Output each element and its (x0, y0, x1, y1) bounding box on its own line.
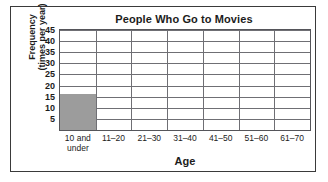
y-axis-tick: 35 (45, 48, 55, 57)
y-axis-tick: 25 (45, 70, 55, 79)
x-axis-label: Age (59, 155, 311, 167)
x-axis-tick-line: under (60, 143, 96, 153)
x-axis-tick-line: 51–60 (239, 133, 275, 143)
y-axis-tick: 20 (45, 81, 55, 90)
x-axis-tick: 61–70 (274, 133, 310, 143)
x-axis-tick: 10 andunder (60, 133, 96, 153)
bar[interactable] (60, 94, 96, 130)
chart-title: People Who Go to Movies (57, 13, 311, 25)
x-axis-tick-line: 61–70 (274, 133, 310, 143)
y-axis-tick: 10 (45, 103, 55, 112)
y-axis-tick-labels: 45403530252015105 (31, 29, 57, 131)
x-axis-tick-line: 10 and (60, 133, 96, 143)
y-axis-tick: 30 (45, 59, 55, 68)
y-axis-tick: 15 (45, 92, 55, 101)
x-axis-tick: 51–60 (239, 133, 275, 143)
x-axis-tick-line: 21–30 (131, 133, 167, 143)
x-axis-tick-line: 11–20 (96, 133, 132, 143)
x-axis-tick: 41–50 (203, 133, 239, 143)
x-axis-tick: 31–40 (167, 133, 203, 143)
y-axis-tick: 45 (45, 26, 55, 35)
chart-figure: People Who Go to Movies Frequency (times… (10, 6, 316, 172)
y-axis-tick: 40 (45, 37, 55, 46)
bar-series (60, 30, 310, 130)
x-axis-tick-line: 31–40 (167, 133, 203, 143)
x-axis-tick-line: 41–50 (203, 133, 239, 143)
x-axis-tick-labels: 10 andunder11–2021–3031–4041–5051–6061–7… (59, 133, 311, 157)
plot-area (59, 29, 311, 131)
x-axis-tick: 11–20 (96, 133, 132, 143)
y-axis-tick: 5 (50, 114, 55, 123)
x-axis-tick: 21–30 (131, 133, 167, 143)
